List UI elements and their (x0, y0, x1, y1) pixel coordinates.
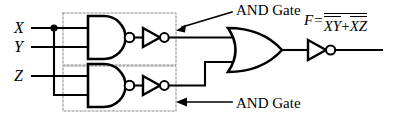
output-expression-f: F (304, 12, 313, 29)
annotation-arrow-bottom-head (176, 98, 187, 107)
output-expression-operator: + (341, 18, 349, 34)
inverter-lower-body (143, 76, 160, 95)
input-label-z: Z (14, 68, 23, 84)
inverter-upper-bubble (160, 33, 169, 42)
output-expression-equals: = (313, 12, 323, 29)
inverter-lower-bubble (160, 81, 169, 90)
input-label-y: Y (14, 39, 23, 55)
logic-circuit-diagram: X Y Z AND Gate AND Gate F=XY+XZ (0, 0, 396, 119)
inverter-upper-body (143, 28, 160, 47)
or-gate-body (228, 28, 282, 72)
annotation-arrow-top-head (176, 25, 186, 33)
wire-x-branch (54, 28, 88, 95)
nand-upper-body (88, 16, 125, 59)
nand-upper-bubble (125, 33, 135, 43)
input-label-x: X (14, 20, 24, 36)
nand-lower-bubble (125, 81, 135, 91)
wire-lower-to-or (169, 62, 233, 86)
inverter-output-body (308, 40, 326, 60)
output-expression-term2: XZ (350, 18, 368, 34)
output-expression-term1: XY (324, 18, 342, 34)
output-expression-term2-bar: XZ (350, 16, 368, 35)
junction-dot-x (50, 24, 57, 31)
annotation-and-gate-top: AND Gate (236, 3, 301, 18)
annotation-arrow-top-line (182, 12, 232, 27)
output-expression-term1-bar: XY (324, 16, 342, 35)
inverter-output-bubble (326, 45, 335, 54)
lower-and-gate-box (63, 66, 176, 111)
output-expression-outer-bar: XY+XZ (324, 13, 368, 35)
output-expression: F=XY+XZ (304, 12, 367, 35)
nand-lower-body (88, 64, 126, 107)
annotation-and-gate-bottom: AND Gate (236, 96, 301, 111)
